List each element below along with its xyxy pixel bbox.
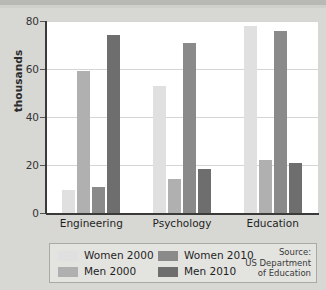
figure-top-edge-inner [0,5,326,8]
bar-education-women-2000 [244,26,257,213]
legend-swatch-men-2010 [158,267,178,277]
bar-psychology-women-2010 [183,43,196,213]
y-tick-label-60: 60 [9,64,39,74]
bar-psychology-men-2000 [168,179,181,213]
bar-chart-figure: thousands 80 60 40 20 0 Engineering Psyc… [0,0,326,290]
legend-label-men-2000: Men 2000 [84,265,136,278]
bar-group-psychology [137,21,228,213]
y-tick-label-0: 0 [9,208,39,218]
source-line-1: Source: [225,247,311,258]
x-tick-label-psychology: Psychology [137,217,228,229]
bar-psychology-men-2010 [198,169,211,213]
y-tick-label-40: 40 [9,112,39,122]
bar-group-engineering [46,21,137,213]
source-note: Source: US Department of Education [225,247,311,279]
legend-label-women-2000: Women 2000 [84,249,154,262]
bar-group-education [227,21,318,213]
y-tick-label-20: 20 [9,160,39,170]
bar-education-men-2000 [259,160,272,213]
x-axis-line [46,213,319,215]
y-axis-ticks: 80 60 40 20 0 [0,0,48,290]
x-tick-label-education: Education [227,217,318,229]
legend-swatch-men-2000 [58,267,78,277]
bar-education-men-2010 [289,163,302,213]
bar-engineering-men-2000 [77,71,90,213]
legend-swatch-women-2000 [58,251,78,261]
bar-education-women-2010 [274,31,287,213]
x-tick-label-engineering: Engineering [46,217,137,229]
bar-psychology-women-2000 [153,86,166,213]
source-line-3: of Education [225,268,311,279]
bar-engineering-men-2010 [107,35,120,213]
chart-legend: Women 2000 Men 2000 Women 2010 Men 2010 … [49,243,317,283]
legend-swatch-women-2010 [158,251,178,261]
plot-area [46,21,318,213]
y-tick-label-80: 80 [9,16,39,26]
bar-engineering-women-2010 [92,187,105,213]
bar-engineering-women-2000 [62,190,75,213]
y-axis-line [45,21,47,214]
source-line-2: US Department [225,258,311,269]
